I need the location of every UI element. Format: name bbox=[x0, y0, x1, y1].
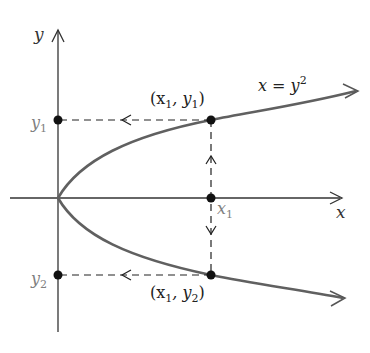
curve-bottom-arrow-icon bbox=[330, 291, 345, 306]
y2-label: y2 bbox=[30, 269, 47, 291]
lower-point-label: (x1, y2) bbox=[150, 283, 205, 305]
y1-label: y1 bbox=[30, 113, 47, 135]
point-y1 bbox=[54, 116, 63, 125]
parabola-diagram: y x x = y2 (x1, y1) (x1, y2) y1 y2 x1 bbox=[0, 0, 370, 353]
point-y2 bbox=[54, 271, 63, 280]
x-axis-label: x bbox=[336, 202, 346, 222]
upper-point-label: (x1, y1) bbox=[150, 89, 205, 111]
point-upper bbox=[207, 116, 216, 125]
diagram-canvas: y x x = y2 (x1, y1) (x1, y2) y1 y2 x1 bbox=[0, 0, 370, 353]
point-x1 bbox=[207, 194, 216, 203]
point-lower bbox=[207, 271, 216, 280]
y-axis-label: y bbox=[33, 24, 44, 44]
curve-equation-label: x = y2 bbox=[258, 74, 307, 95]
y-axis bbox=[52, 30, 64, 332]
x1-label: x1 bbox=[217, 199, 233, 221]
